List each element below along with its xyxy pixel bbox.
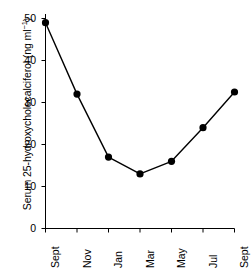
data-series-line bbox=[46, 23, 235, 174]
y-tick-label-0: 0 bbox=[14, 223, 36, 233]
x-axis-ticks bbox=[46, 229, 235, 233]
data-point bbox=[73, 91, 80, 98]
x-tick-label-jan: Jan bbox=[113, 251, 124, 268]
y-axis-ticks bbox=[42, 19, 46, 229]
line-chart-plot bbox=[0, 0, 251, 273]
y-tick-label-30: 30 bbox=[14, 97, 36, 107]
chart-figure: Serum 25-hydroxycholecalciferol (ng ml−1… bbox=[0, 0, 251, 273]
y-tick-label-50: 50 bbox=[14, 13, 36, 23]
x-tick-label-nov: Nov bbox=[82, 249, 93, 268]
y-tick-label-10: 10 bbox=[14, 181, 36, 191]
y-axis-title: Serum 25-hydroxycholecalciferol (ng ml−1… bbox=[18, 0, 36, 228]
data-point bbox=[231, 88, 238, 95]
x-tick-label-sept-start: Sept bbox=[50, 246, 61, 268]
data-point bbox=[199, 124, 206, 131]
data-series-markers bbox=[42, 19, 238, 177]
x-tick-label-mar: Mar bbox=[145, 250, 156, 268]
y-tick-label-20: 20 bbox=[14, 139, 36, 149]
data-point bbox=[136, 170, 143, 177]
x-tick-label-jul: Jul bbox=[208, 255, 219, 268]
data-point bbox=[105, 154, 112, 161]
x-tick-label-may: May bbox=[176, 248, 187, 268]
data-point bbox=[42, 19, 49, 26]
x-tick-label-sept-end: Sept bbox=[239, 246, 250, 268]
data-point bbox=[168, 158, 175, 165]
y-tick-label-40: 40 bbox=[14, 55, 36, 65]
